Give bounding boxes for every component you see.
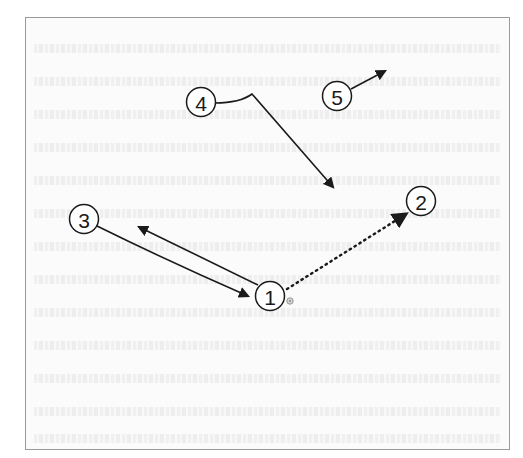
callout-2: 2 xyxy=(407,187,436,216)
arrow-3-to-1 xyxy=(97,226,248,296)
arrow-1-up-left xyxy=(139,227,258,285)
hooked-arrow-4 xyxy=(215,94,333,187)
target-marker-icon xyxy=(287,298,293,304)
callout-5: 5 xyxy=(323,82,352,111)
callout-1-label: 1 xyxy=(264,286,276,309)
diagram-overlay: 1 2 3 4 5 xyxy=(0,0,523,458)
callout-3-label: 3 xyxy=(78,209,90,232)
arrow-5-up-right xyxy=(351,71,385,89)
callout-3: 3 xyxy=(70,205,99,234)
callout-5-label: 5 xyxy=(331,86,343,109)
callout-4: 4 xyxy=(187,88,216,117)
dotted-arrow-1-to-2 xyxy=(287,214,406,289)
callout-4-label: 4 xyxy=(195,92,207,115)
callout-1: 1 xyxy=(256,282,285,311)
callout-2-label: 2 xyxy=(415,191,427,214)
